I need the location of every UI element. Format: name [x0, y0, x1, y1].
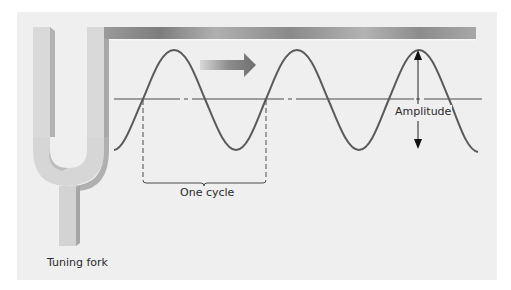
amplitude-label: Amplitude [394, 105, 452, 118]
tuning-fork-label: Tuning fork [47, 256, 108, 269]
top-bar [104, 27, 476, 41]
one-cycle-label: One cycle [180, 186, 234, 199]
sound-wave-diagram [0, 0, 511, 290]
